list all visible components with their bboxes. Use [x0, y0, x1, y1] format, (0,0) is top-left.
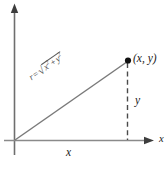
horizontal-leg-label: x — [66, 147, 71, 159]
y-axis — [11, 4, 18, 156]
vertical-leg-label: y — [135, 95, 140, 107]
point-coordinate-label: (x, y) — [133, 53, 157, 65]
x-axis-label: x — [159, 134, 164, 145]
y-axis-arrowhead-icon — [11, 4, 18, 14]
figure-canvas — [0, 0, 168, 177]
distance-formula-figure: (x, y) y x x r=√x2+y2 — [0, 0, 168, 177]
x-axis — [4, 137, 154, 144]
x-axis-arrowhead-icon — [144, 137, 154, 144]
point-marker — [125, 57, 131, 63]
